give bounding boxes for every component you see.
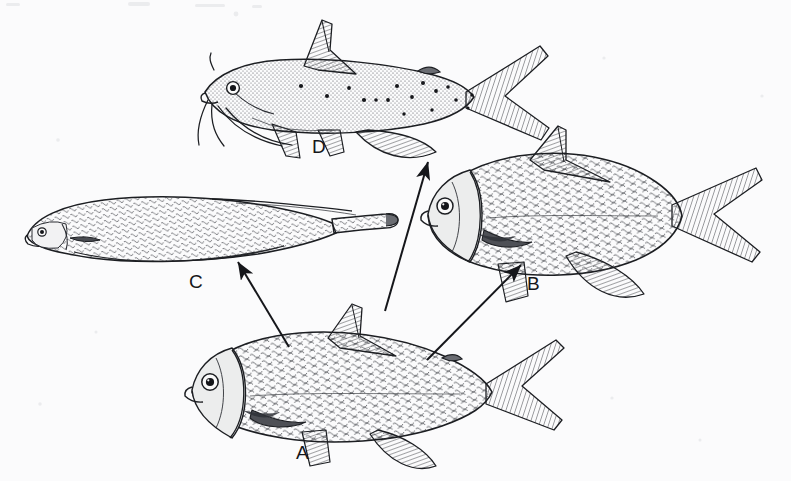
arrow-a-to-d bbox=[385, 162, 428, 311]
arrow-a-to-b bbox=[427, 265, 521, 360]
arrow-a-to-c bbox=[238, 262, 289, 347]
figure-label-c: C bbox=[189, 272, 203, 291]
figure-label-a: A bbox=[296, 443, 309, 462]
arrow-layer bbox=[0, 0, 791, 481]
illustration-plate: A B C D bbox=[0, 0, 791, 481]
figure-label-b: B bbox=[527, 274, 540, 293]
figure-label-d: D bbox=[312, 137, 326, 156]
